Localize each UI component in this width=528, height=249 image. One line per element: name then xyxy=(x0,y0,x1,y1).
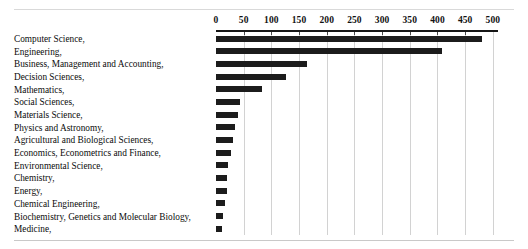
x-axis-tick-mark xyxy=(271,32,272,35)
x-axis-tick-label: 350 xyxy=(403,14,418,27)
x-axis-tick-mark xyxy=(299,32,300,35)
top-divider-rule xyxy=(14,9,514,10)
bar xyxy=(216,213,223,219)
x-axis-tick-label: 250 xyxy=(347,14,362,27)
category-label: Economics, Econometrics and Finance, xyxy=(14,147,214,160)
category-label: Business, Management and Accounting, xyxy=(14,58,214,71)
category-label: Mathematics, xyxy=(14,84,214,97)
category-label: Physics and Astronomy, xyxy=(14,122,214,135)
x-axis-tick-label: 300 xyxy=(375,14,390,27)
x-axis-tick-label: 50 xyxy=(239,14,249,27)
bar xyxy=(216,162,228,168)
category-label: Chemical Engineering, xyxy=(14,198,214,211)
horizontal-bar-chart: 050100150200250300350400450500 Computer … xyxy=(0,0,528,249)
x-axis-tick-label: 0 xyxy=(214,14,219,27)
x-axis-tick-label: 400 xyxy=(430,14,445,27)
category-label: Agricultural and Biological Sciences, xyxy=(14,134,214,147)
x-axis-tick-labels: 050100150200250300350400450500 xyxy=(216,14,514,30)
category-label: Medicine, xyxy=(14,223,214,236)
bar xyxy=(216,137,233,143)
category-label: Engineering, xyxy=(14,46,214,59)
bar xyxy=(216,99,240,105)
bars-layer xyxy=(216,32,514,235)
bar xyxy=(216,74,286,80)
category-label: Environmental Science, xyxy=(14,160,214,173)
category-label: Social Sciences, xyxy=(14,96,214,109)
bar xyxy=(216,175,227,181)
category-label: Materials Science, xyxy=(14,109,214,122)
bar xyxy=(216,86,262,92)
bar xyxy=(216,188,227,194)
x-axis-tick-mark xyxy=(354,32,355,35)
x-axis-tick-label: 100 xyxy=(264,14,279,27)
category-label: Computer Science, xyxy=(14,33,214,46)
x-axis-tick-label: 450 xyxy=(458,14,473,27)
category-label: Energy, xyxy=(14,185,214,198)
bar xyxy=(216,48,442,54)
category-label-column: Computer Science,Engineering,Business, M… xyxy=(14,32,214,235)
category-label: Decision Sciences, xyxy=(14,71,214,84)
bar xyxy=(216,36,482,42)
x-axis-tick-label: 200 xyxy=(319,14,334,27)
x-axis-tick-mark xyxy=(410,32,411,35)
category-label: Biochemistry, Genetics and Molecular Bio… xyxy=(14,211,214,224)
plot-area xyxy=(216,32,514,235)
bar xyxy=(216,124,235,130)
x-axis-tick-label: 150 xyxy=(292,14,307,27)
bottom-divider-rule xyxy=(14,240,514,241)
bar xyxy=(216,112,238,118)
x-axis-tick-mark xyxy=(465,32,466,35)
bar xyxy=(216,61,307,67)
bar xyxy=(216,150,231,156)
bar xyxy=(216,200,225,206)
bar xyxy=(216,226,222,232)
x-axis-tick-mark xyxy=(244,32,245,35)
x-axis-tick-mark xyxy=(437,32,438,35)
x-axis-tick-mark xyxy=(327,32,328,35)
x-axis-tick-label: 500 xyxy=(486,14,501,27)
category-label: Chemistry, xyxy=(14,172,214,185)
x-axis-tick-mark xyxy=(382,32,383,35)
